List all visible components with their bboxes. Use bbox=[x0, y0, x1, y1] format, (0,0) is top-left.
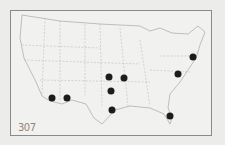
map-point bbox=[190, 54, 197, 61]
map-label: 307 bbox=[18, 122, 36, 133]
map-point bbox=[64, 95, 71, 102]
map-point bbox=[49, 95, 56, 102]
map-point bbox=[121, 75, 128, 82]
map-point bbox=[106, 74, 113, 81]
map-point bbox=[108, 88, 115, 95]
map-point bbox=[167, 113, 174, 120]
map-point bbox=[175, 71, 182, 78]
map-point bbox=[109, 107, 116, 114]
